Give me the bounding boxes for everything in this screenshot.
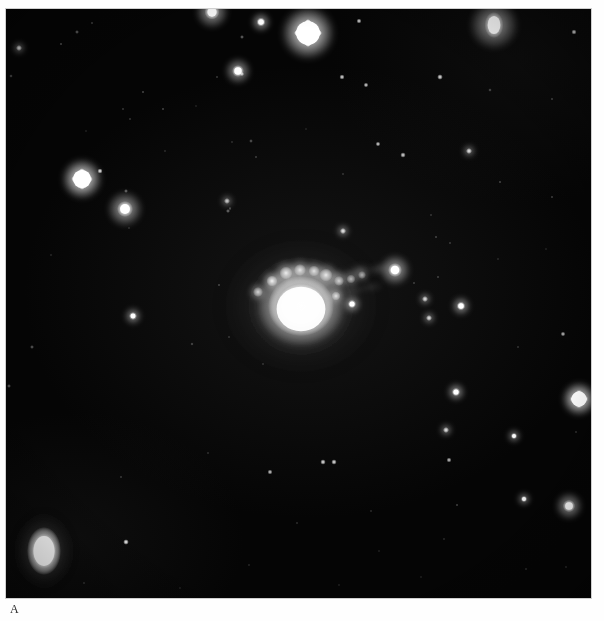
panel-letter-label: A: [10, 603, 19, 615]
astronomical-image-plate: [6, 9, 591, 598]
bright-companion-object: [10, 508, 78, 594]
figure-root: A: [0, 0, 604, 621]
star-field-canvas: [6, 9, 591, 598]
